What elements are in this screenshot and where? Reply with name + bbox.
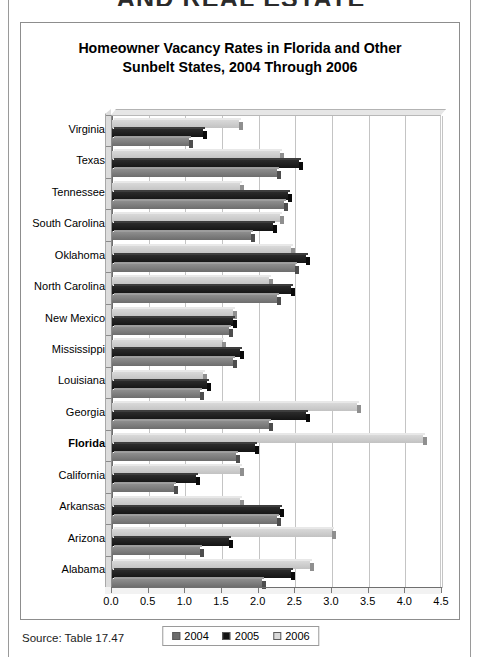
legend-item-2005: 2005 <box>223 630 259 642</box>
gridline <box>369 116 370 588</box>
legend-label-2006: 2006 <box>285 630 309 642</box>
bar-alabama-2004 <box>112 579 266 587</box>
y-axis-tick <box>106 524 111 525</box>
plot-depth-bottom <box>105 587 441 594</box>
y-axis-tick <box>106 493 111 494</box>
y-axis-label-oklahoma: Oklahoma <box>0 249 105 261</box>
bar-georgia-2004 <box>112 421 273 429</box>
gridline <box>442 116 443 588</box>
y-axis-tick <box>106 178 111 179</box>
plot-wrapper: VirginiaTexasTennesseeSouth CarolinaOkla… <box>21 91 461 621</box>
page-rule-right <box>470 0 471 657</box>
legend-label-2005: 2005 <box>235 630 259 642</box>
x-axis-tick <box>111 588 112 593</box>
x-axis-tick <box>184 588 185 593</box>
y-axis-label-south-carolina: South Carolina <box>0 217 105 229</box>
chart-legend: 2004 2005 2006 <box>162 626 319 646</box>
legend-item-2004: 2004 <box>172 630 208 642</box>
y-axis-tick <box>106 304 111 305</box>
legend-item-2006: 2006 <box>273 630 309 642</box>
y-axis-label-new-mexico: New Mexico <box>0 312 105 324</box>
y-axis-tick <box>106 367 111 368</box>
chart-title-line-1: Homeowner Vacancy Rates in Florida and O… <box>43 39 437 58</box>
y-axis-tick <box>106 430 111 431</box>
page-rule-left <box>8 0 9 657</box>
x-axis-tick <box>221 588 222 593</box>
y-axis-label-texas: Texas <box>0 154 105 166</box>
bar-louisiana-2004 <box>112 390 204 398</box>
gridline <box>405 116 406 588</box>
book-page: AND REAL ESTATE Homeowner Vacancy Rates … <box>0 0 482 657</box>
bar-tennessee-2004 <box>112 201 288 209</box>
y-axis-tick <box>106 556 111 557</box>
y-axis-label-alabama: Alabama <box>0 563 105 575</box>
x-axis-line <box>111 587 442 588</box>
x-axis-tick <box>404 588 405 593</box>
y-axis-tick <box>106 209 111 210</box>
running-head: AND REAL ESTATE <box>0 0 482 6</box>
bar-texas-2004 <box>112 169 281 177</box>
y-axis-tick <box>106 398 111 399</box>
legend-label-2004: 2004 <box>184 630 208 642</box>
y-axis-label-georgia: Georgia <box>0 406 105 418</box>
bar-florida-2004 <box>112 453 240 461</box>
bar-new-mexico-2004 <box>112 327 233 335</box>
bar-arkansas-2004 <box>112 516 281 524</box>
bar-south-carolina-2004 <box>112 232 255 240</box>
y-axis-tick <box>106 335 111 336</box>
gridline <box>332 116 333 588</box>
y-axis-tick <box>106 461 111 462</box>
legend-swatch-2004 <box>172 632 180 640</box>
x-axis-label-4.5: 4.5 <box>419 595 463 607</box>
y-axis-label-arizona: Arizona <box>0 532 105 544</box>
bar-california-2004 <box>112 484 178 492</box>
y-axis-tick <box>106 115 111 116</box>
bar-mississippi-2004 <box>112 358 237 366</box>
figure-container: Homeowner Vacancy Rates in Florida and O… <box>20 22 460 620</box>
y-axis-label-florida: Florida <box>0 437 105 449</box>
legend-swatch-2006 <box>273 632 281 640</box>
y-axis-label-north-carolina: North Carolina <box>0 280 105 292</box>
x-axis-tick <box>368 588 369 593</box>
y-axis-label-louisiana: Louisiana <box>0 374 105 386</box>
x-axis-tick <box>148 588 149 593</box>
y-axis-label-mississippi: Mississippi <box>0 343 105 355</box>
x-axis-tick <box>441 588 442 593</box>
bar-north-carolina-2004 <box>112 295 281 303</box>
bar-virginia-2004 <box>112 138 193 146</box>
x-axis-tick <box>294 588 295 593</box>
x-axis-tick <box>331 588 332 593</box>
y-axis-tick <box>106 272 111 273</box>
x-axis-tick <box>258 588 259 593</box>
legend-swatch-2005 <box>223 632 231 640</box>
y-axis-label-virginia: Virginia <box>0 123 105 135</box>
chart-title: Homeowner Vacancy Rates in Florida and O… <box>43 39 437 76</box>
y-axis-tick <box>106 146 111 147</box>
plot-area <box>111 115 441 587</box>
y-axis-tick <box>106 241 111 242</box>
gridline <box>295 116 296 588</box>
chart-title-line-2: Sunbelt States, 2004 Through 2006 <box>43 58 437 77</box>
y-axis-label-arkansas: Arkansas <box>0 500 105 512</box>
bar-oklahoma-2004 <box>112 264 299 272</box>
y-axis-label-tennessee: Tennessee <box>0 186 105 198</box>
bar-arizona-2004 <box>112 547 204 555</box>
source-note: Source: Table 17.47 <box>22 632 124 644</box>
y-axis-label-california: California <box>0 469 105 481</box>
